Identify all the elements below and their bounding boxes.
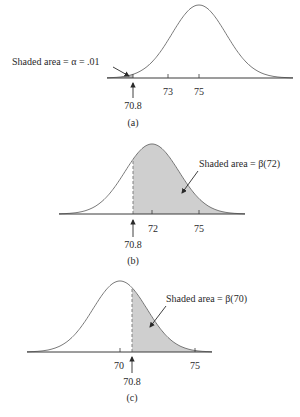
- caption: (c): [126, 392, 137, 404]
- critical-value-label: 70.8: [124, 100, 142, 111]
- panel-c: 70 75 70.8 (c) Shaded area = β(70): [27, 281, 247, 404]
- normal-curve-a: [107, 5, 293, 78]
- figure: 73 75 70.8 (a) Shaded area = α = .01 72 …: [0, 0, 300, 417]
- annotation: Shaded area = β(70): [166, 293, 247, 305]
- shaded-area-beta-72: [133, 144, 245, 214]
- tick-label: 75: [194, 223, 204, 234]
- tick-label: 73: [163, 86, 173, 97]
- normal-curve-c: [27, 281, 212, 352]
- pointer-arrow-icon: [150, 306, 166, 327]
- tick-label: 72: [148, 223, 158, 234]
- tick-label: 70: [114, 360, 124, 371]
- tick-label: 75: [190, 360, 200, 371]
- critical-value-label: 70.8: [123, 376, 141, 387]
- tick-label: 75: [194, 86, 204, 97]
- pointer-arrow-icon: [113, 67, 129, 76]
- panel-b: 72 75 70.8 (b) Shaded area = β(72): [59, 144, 280, 267]
- annotation: Shaded area = α = .01: [12, 56, 100, 67]
- panel-a: 73 75 70.8 (a) Shaded area = α = .01: [12, 5, 293, 129]
- critical-value-label: 70.8: [124, 239, 142, 250]
- caption: (a): [127, 117, 138, 129]
- caption: (b): [127, 255, 139, 267]
- annotation: Shaded area = β(72): [199, 158, 280, 170]
